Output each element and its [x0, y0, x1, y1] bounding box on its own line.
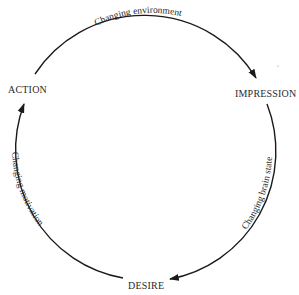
- node-action: ACTION: [8, 84, 47, 95]
- node-impression: IMPRESSION: [235, 88, 296, 99]
- speck: [277, 65, 278, 66]
- cycle-diagram: ACTION IMPRESSION DESIRE Changing enviro…: [0, 0, 299, 295]
- edge-action-to-impression: [35, 15, 256, 78]
- node-desire: DESIRE: [128, 280, 164, 291]
- edge-desire-to-action: [16, 104, 123, 278]
- edge-label-changing-motivation: Changing motivation: [10, 151, 46, 227]
- edge-label-changing-environment: Changing environment: [93, 5, 184, 28]
